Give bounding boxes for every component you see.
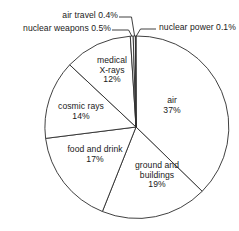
pie-chart-figure: air travel 0.4% nuclear weapons 0.5% nuc…: [0, 0, 239, 231]
pie-chart-canvas: [0, 0, 239, 231]
leader-line-air-travel: [119, 17, 135, 36]
slice-label-medical-x-rays: medical X-rays 12%: [80, 56, 144, 85]
slice-label-air: air 37%: [152, 96, 192, 115]
leader-line-nuclear-power: [136, 29, 156, 36]
slice-label-ground-and-buildings-value: 19%: [117, 180, 197, 190]
callout-air-travel: air travel 0.4%: [18, 11, 118, 21]
leader-line-nuclear-weapons: [112, 30, 132, 36]
callout-nuclear-weapons: nuclear weapons 0.5%: [6, 24, 111, 34]
slice-label-medical-x-rays-value: 12%: [80, 75, 144, 85]
callout-nuclear-power: nuclear power 0.1%: [159, 23, 239, 33]
slice-label-cosmic-rays-value: 14%: [43, 112, 119, 122]
slice-label-ground-and-buildings: ground and buildings 19%: [117, 161, 197, 190]
slice-label-cosmic-rays: cosmic rays 14%: [43, 102, 119, 121]
slice-label-air-value: 37%: [152, 106, 192, 116]
